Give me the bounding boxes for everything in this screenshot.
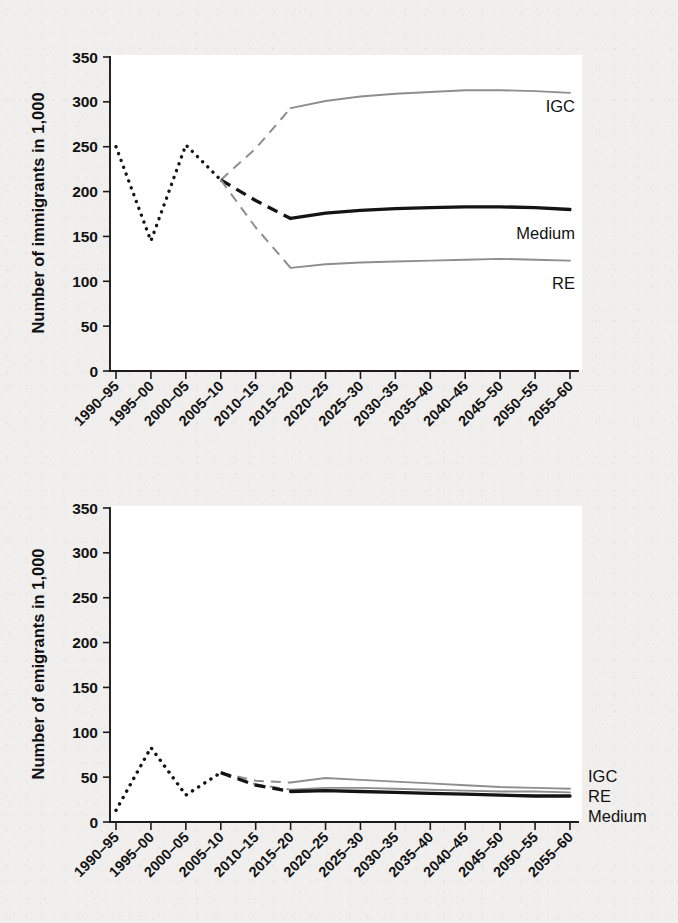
emigrants-chart-svg: 050100150200250300350 1990–951995–002000…: [0, 461, 678, 923]
series-label-igc: IGC: [588, 767, 617, 785]
y-tick-label: 150: [72, 679, 98, 696]
y-axis-group: 050100150200250300350: [72, 500, 110, 831]
emigrants-chart: 050100150200250300350 1990–951995–002000…: [0, 461, 678, 923]
y-tick-label: 150: [72, 228, 98, 245]
y-axis-title: Number of emigrants in 1,000: [29, 548, 47, 779]
x-axis-group: 1990–951995–002000–052005–102010–152015–…: [71, 371, 578, 429]
immigrants-chart-svg: 050100150200250300350 1990–951995–002000…: [0, 0, 678, 462]
x-tick-labels: 1990–951995–002000–052005–102010–152015–…: [71, 378, 576, 429]
y-tick-label: 300: [72, 93, 98, 110]
y-tick-labels: 050100150200250300350: [72, 49, 98, 380]
y-tick-label: 350: [72, 49, 98, 66]
y-tick-label: 250: [72, 138, 98, 155]
y-ticks: [103, 508, 110, 822]
y-tick-label: 250: [72, 589, 98, 606]
y-tick-label: 50: [81, 769, 98, 786]
series-label-igc: IGC: [546, 97, 575, 115]
y-tick-label: 200: [72, 183, 98, 200]
y-tick-label: 350: [72, 500, 98, 517]
y-ticks: [103, 57, 110, 371]
series-label-medium: Medium: [516, 224, 575, 242]
x-ticks: [116, 371, 570, 379]
series-label-re: RE: [588, 787, 611, 805]
y-tick-label: 300: [72, 544, 98, 561]
y-axis-group: 050100150200250300350: [72, 49, 110, 380]
y-tick-label: 100: [72, 273, 98, 290]
y-tick-label: 50: [81, 318, 98, 335]
y-tick-label: 0: [89, 363, 98, 380]
x-tick-labels: 1990–951995–002000–052005–102010–152015–…: [71, 829, 576, 880]
series-label-re: RE: [552, 274, 575, 292]
y-tick-label: 100: [72, 724, 98, 741]
scanned-page: 050100150200250300350 1990–951995–002000…: [0, 0, 678, 923]
y-tick-label: 0: [89, 814, 98, 831]
plot-background: [110, 506, 582, 822]
y-axis-title: Number of immigrants in 1,000: [29, 92, 47, 333]
immigrants-chart: 050100150200250300350 1990–951995–002000…: [0, 0, 678, 462]
y-tick-label: 200: [72, 634, 98, 651]
y-tick-labels: 050100150200250300350: [72, 500, 98, 831]
x-axis-group: 1990–951995–002000–052005–102010–152015–…: [71, 822, 578, 880]
x-ticks: [116, 822, 570, 830]
series-label-medium: Medium: [588, 807, 647, 825]
